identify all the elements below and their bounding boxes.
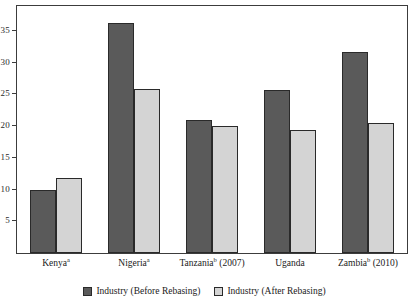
legend-swatch-before-rebasing-icon [83,287,92,296]
y-axis-tick-label: 35 [1,24,10,37]
x-axis-label-name: Uganda [275,258,305,268]
x-axis-label-footnote-marker: a [147,256,150,263]
legend-label: Industry (After Rebasing) [227,285,325,298]
legend-swatch-after-rebasing-icon [214,287,223,296]
bar-before-rebasing [30,190,56,253]
y-axis-tick-label: 25 [1,87,10,100]
x-axis-label: Zambiab (2010) [329,256,407,270]
bar-chart-figure: 5101520253035 KenyaaNigeriaaTanzaniab (2… [0,0,409,305]
x-axis-label: Kenyaa [17,256,95,270]
y-axis-tick-label: 20 [1,119,10,132]
y-axis-tick-label: 5 [5,214,10,227]
bar-before-rebasing [342,52,368,253]
bar-before-rebasing [108,23,134,253]
x-axis-label-name: Kenya [42,258,67,268]
x-axis-label-name: Nigeria [118,258,147,268]
x-axis-category-labels: KenyaaNigeriaaTanzaniab (2007)UgandaZamb… [17,256,407,274]
legend-label: Industry (Before Rebasing) [96,285,200,298]
bar-group [264,6,316,253]
y-axis-tick-label: 30 [1,56,10,69]
x-axis-label-year: (2010) [370,258,398,268]
legend-item[interactable]: Industry (Before Rebasing) [83,285,200,298]
x-axis-label-footnote-marker: a [67,256,70,263]
x-axis-label: Nigeriaa [95,256,173,270]
bar-group [186,6,238,253]
bar-after-rebasing [290,130,316,253]
bar-group [342,6,394,253]
y-axis-tick-label: 15 [1,151,10,164]
x-axis-label-name: Zambia [338,258,367,268]
x-axis-label: Uganda [251,256,329,270]
bar-after-rebasing [212,126,238,253]
bar-after-rebasing [134,89,160,253]
y-axis: 5101520253035 [0,0,17,305]
bar-after-rebasing [368,123,394,253]
legend-item[interactable]: Industry (After Rebasing) [214,285,325,298]
bar-before-rebasing [186,120,212,253]
bar-before-rebasing [264,90,290,253]
x-axis-label-year: (2007) [217,258,245,268]
y-axis-tick-label: 10 [1,183,10,196]
x-axis-label: Tanzaniab (2007) [173,256,251,270]
bar-group [108,6,160,253]
x-axis-label-name: Tanzania [179,258,213,268]
bars-layer [17,6,407,253]
chart-legend: Industry (Before Rebasing)Industry (Afte… [0,283,409,299]
bar-after-rebasing [56,178,82,253]
bar-group [30,6,82,253]
